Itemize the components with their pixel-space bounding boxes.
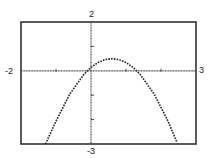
x-min-label: -2 [5,66,13,76]
x-max-label: 3 [199,65,204,75]
graph-canvas [0,0,209,158]
parabola-curve [46,59,177,144]
x-axis-ticks [56,69,161,72]
y-max-label: 2 [89,9,94,19]
y-min-label: -3 [87,146,95,156]
